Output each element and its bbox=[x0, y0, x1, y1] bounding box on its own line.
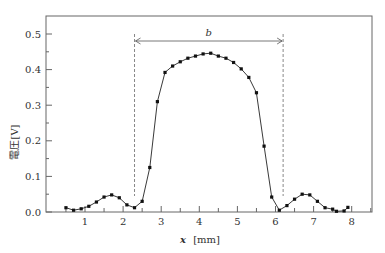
data-point bbox=[202, 52, 205, 55]
data-series bbox=[64, 52, 349, 213]
data-point bbox=[247, 76, 250, 79]
x-tick-label: 7 bbox=[310, 216, 316, 227]
annotation-label-b: b bbox=[206, 27, 212, 38]
annotation-guides bbox=[135, 34, 284, 196]
data-point bbox=[278, 209, 281, 212]
x-tick-label: 2 bbox=[120, 216, 126, 227]
data-point bbox=[323, 206, 326, 209]
data-point bbox=[179, 60, 182, 63]
data-point bbox=[102, 195, 105, 198]
plot-frame bbox=[46, 16, 372, 212]
y-tick-label: 0.0 bbox=[25, 207, 41, 218]
x-tick-label: 6 bbox=[272, 216, 278, 227]
data-point bbox=[194, 54, 197, 57]
data-point bbox=[64, 206, 67, 209]
y-axis-title: 電圧[V] bbox=[9, 124, 20, 159]
data-point bbox=[240, 67, 243, 70]
data-point bbox=[262, 145, 265, 148]
y-tick-label: 0.4 bbox=[25, 64, 41, 75]
x-tick-label: 8 bbox=[349, 216, 355, 227]
data-point bbox=[301, 193, 304, 196]
data-point bbox=[110, 193, 113, 196]
data-point bbox=[331, 208, 334, 211]
data-point bbox=[163, 71, 166, 74]
data-point bbox=[232, 61, 235, 64]
data-point bbox=[148, 166, 151, 169]
data-point bbox=[141, 200, 144, 203]
data-point bbox=[186, 57, 189, 60]
y-tick-label: 0.5 bbox=[25, 29, 41, 40]
x-tick-label: 4 bbox=[196, 216, 202, 227]
data-point bbox=[342, 209, 345, 212]
data-point bbox=[118, 196, 121, 199]
data-point bbox=[72, 209, 75, 212]
x-tick-label: 1 bbox=[82, 216, 88, 227]
data-point bbox=[285, 204, 288, 207]
y-axis-ticks: 0.00.10.20.30.40.5 bbox=[25, 29, 52, 218]
x-tick-label: 3 bbox=[158, 216, 164, 227]
y-tick-label: 0.2 bbox=[25, 135, 41, 146]
data-point bbox=[125, 203, 128, 206]
data-point bbox=[95, 200, 98, 203]
data-point bbox=[316, 200, 319, 203]
data-point bbox=[335, 210, 338, 213]
data-point bbox=[308, 193, 311, 196]
data-point bbox=[255, 91, 258, 94]
chart: 0.00.10.20.30.40.5 12345678 b 電圧[V] x [m… bbox=[0, 0, 385, 253]
data-point bbox=[171, 64, 174, 67]
data-point bbox=[133, 206, 136, 209]
data-point bbox=[217, 54, 220, 57]
x-tick-label: 5 bbox=[234, 216, 240, 227]
x-axis-title: x [mm] bbox=[179, 234, 220, 245]
data-point bbox=[156, 100, 159, 103]
data-point bbox=[224, 57, 227, 60]
data-point bbox=[346, 206, 349, 209]
y-tick-label: 0.1 bbox=[25, 171, 41, 182]
data-point bbox=[87, 205, 90, 208]
data-point bbox=[270, 195, 273, 198]
data-point bbox=[80, 207, 83, 210]
data-point bbox=[209, 52, 212, 55]
y-tick-label: 0.3 bbox=[25, 100, 41, 111]
data-point bbox=[293, 198, 296, 201]
